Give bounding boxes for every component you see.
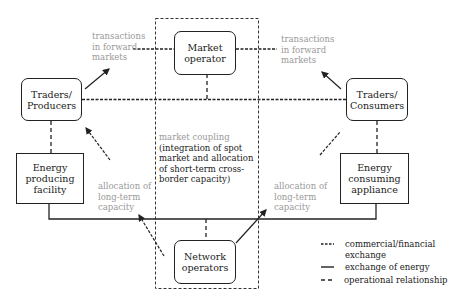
forward-markets-right-label: transactions in forward markets xyxy=(281,34,334,66)
energy-consuming-appliance-label: Energy consuming appliance xyxy=(345,162,405,195)
allocation-right-label: allocation of long-term capacity xyxy=(274,181,327,213)
traders-consumers-label: Traders/ Consumers xyxy=(349,89,405,111)
energy-producing-facility-label: Energy producing facility xyxy=(22,162,78,195)
traders-producers-label: Traders/ Producers xyxy=(27,89,77,111)
energy-producing-facility-node: Energy producing facility xyxy=(16,153,84,204)
legend-commercial: commercial/financial exchange xyxy=(345,239,445,260)
energy-consuming-appliance-node: Energy consuming appliance xyxy=(340,153,409,204)
market-operator-node: Market operator xyxy=(174,31,236,75)
legend-energy: exchange of energy xyxy=(345,262,430,273)
traders-consumers-node: Traders/ Consumers xyxy=(346,78,408,121)
market-operator-label: Market operator xyxy=(183,42,227,64)
market-coupling-label: market coupling (integration of spot mar… xyxy=(159,132,253,185)
allocation-left-label: allocation of long-term capacity xyxy=(98,181,151,213)
network-operators-label: Network operators xyxy=(180,251,230,273)
traders-producers-node: Traders/ Producers xyxy=(21,78,82,121)
legend-operational: operational relationship xyxy=(344,275,448,286)
network-operators-node: Network operators xyxy=(174,240,236,284)
forward-markets-left-label: transactions in forward markets xyxy=(92,31,145,63)
